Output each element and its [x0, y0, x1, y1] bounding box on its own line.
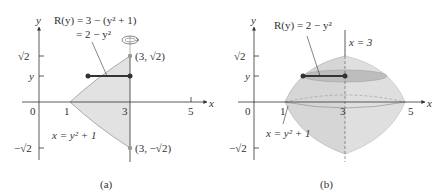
- point-top: [128, 54, 132, 58]
- curve-label-a: x = y² + 1: [52, 129, 96, 141]
- x-tick-5-b: 5: [408, 105, 414, 117]
- x-tick-3-a: 3: [122, 105, 128, 117]
- point-label-top: (3, √2): [135, 50, 165, 62]
- y-axis-label-a: y: [36, 14, 41, 26]
- radius-formula-a: R(y) = 3 − (y² + 1): [54, 14, 136, 26]
- figure-graphics: [0, 0, 440, 196]
- x-tick-3-b: 3: [340, 105, 346, 117]
- x-axis-label-a: x: [209, 97, 214, 109]
- x-axis-label-b: x: [427, 97, 432, 109]
- tick-label-y-a: y: [29, 70, 34, 82]
- caption-a: (a): [100, 178, 112, 190]
- tick-label-neg-sqrt2-a: −√2: [14, 142, 32, 154]
- point-bottom: [128, 146, 132, 150]
- radius-formula-a-simplified: = 2 − y²: [76, 28, 111, 40]
- radius-formula-b: R(y) = 2 − y²: [274, 19, 332, 31]
- rotation-axis-label-b: x = 3: [349, 36, 372, 48]
- x-tick-0-b: 0: [245, 105, 251, 117]
- figure-a-plot: [22, 27, 207, 162]
- y-axis-label-b: y: [251, 14, 256, 26]
- figure-b-plot: [238, 27, 425, 162]
- caption-b: (b): [320, 178, 333, 190]
- tick-label-neg-sqrt2-b: −√2: [229, 142, 247, 154]
- tick-label-y-b: y: [245, 70, 250, 82]
- tick-label-sqrt2-b: √2: [234, 50, 246, 62]
- x-tick-0-a: 0: [30, 105, 36, 117]
- x-tick-5-a: 5: [188, 105, 194, 117]
- point-label-bottom: (3, −√2): [135, 142, 171, 154]
- x-tick-1-b: 1: [280, 105, 286, 117]
- rotation-arrow-icon: [122, 36, 139, 44]
- tick-label-sqrt2-a: √2: [18, 50, 30, 62]
- x-tick-1-a: 1: [64, 105, 70, 117]
- curve-label-b: x = y² + 1: [266, 127, 310, 139]
